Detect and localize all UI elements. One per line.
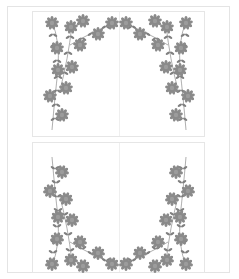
top-floral-arch — [43, 14, 195, 130]
floral-ornament — [0, 0, 239, 279]
bottom-floral-arch — [43, 157, 195, 273]
